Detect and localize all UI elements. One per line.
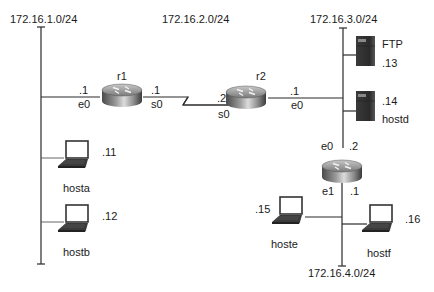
r2-name-label: r2 (256, 70, 266, 82)
hostf-laptop-icon[interactable] (362, 205, 392, 232)
hoste-laptop-icon[interactable] (272, 197, 302, 224)
hosta-name: hosta (63, 182, 91, 194)
hostf-name: hostf (367, 247, 392, 259)
r2-s0-addr: .2 (217, 92, 226, 104)
network-diagram: 172.16.1.0/24 172.16.2.0/24 172.16.3.0/2… (0, 0, 434, 292)
hostd-addr: .14 (382, 95, 397, 107)
r1-name-label: r1 (117, 70, 127, 82)
network-4-label: 172.16.4.0/24 (308, 267, 375, 279)
hoste-addr: .15 (255, 203, 270, 215)
hosta-addr: .11 (102, 146, 116, 158)
hostb-laptop-icon[interactable] (58, 205, 88, 232)
hostd-server-icon[interactable] (356, 91, 375, 121)
r3-e1-label: e1 (322, 185, 334, 197)
r1-e0-addr: .1 (79, 84, 88, 96)
hostf-addr: .16 (405, 213, 420, 225)
network-2-label: 172.16.2.0/24 (162, 13, 229, 25)
hostb-name: hostb (63, 246, 90, 258)
r1-s0-addr: .1 (151, 84, 160, 96)
r1-e0-label: e0 (78, 98, 90, 110)
hostd-name: hostd (382, 113, 409, 125)
network-1-label: 172.16.1.0/24 (10, 13, 77, 25)
ftp-server-icon[interactable] (356, 36, 375, 66)
ftp-addr: .13 (382, 57, 397, 69)
router-r3-icon[interactable] (322, 160, 362, 183)
r2-e0-addr: .1 (290, 85, 299, 97)
r3-e1-addr: .1 (350, 185, 359, 197)
network-3-label: 172.16.3.0/24 (310, 13, 377, 25)
ftp-name: FTP (382, 38, 403, 50)
router-r1-icon[interactable] (102, 84, 142, 107)
r3-e0-label: e0 (321, 140, 333, 152)
router-r2-icon[interactable] (226, 86, 266, 109)
hosta-laptop-icon[interactable] (58, 141, 88, 168)
hostb-addr: .12 (102, 210, 117, 222)
r2-e0-label: e0 (291, 99, 303, 111)
r1-s0-label: s0 (151, 98, 163, 110)
r3-e0-addr: .2 (349, 140, 358, 152)
r2-s0-label: s0 (218, 108, 230, 120)
hoste-name: hoste (271, 238, 298, 250)
